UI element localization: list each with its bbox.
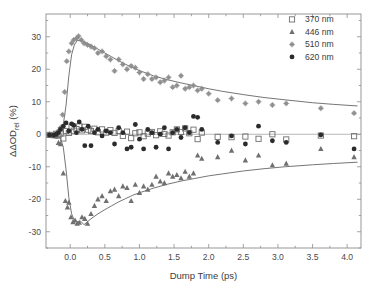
chart-svg: 0.00.51.01.52.02.53.03.54.03020100-10-20… <box>0 0 375 294</box>
data-point-filled-circle <box>352 146 357 151</box>
y-tick-label: -10 <box>29 162 42 172</box>
x-axis-label: Dump Time (ps) <box>170 270 238 281</box>
y-tick-label: 20 <box>31 64 41 74</box>
y-tick-label: 10 <box>31 97 41 107</box>
data-point-filled-triangle <box>178 175 183 180</box>
y-tick-label: -20 <box>29 194 42 204</box>
x-tick-label: 2.0 <box>203 252 215 262</box>
data-point-filled-triangle <box>92 203 97 208</box>
data-point-open-square <box>256 136 261 141</box>
data-point-filled-triangle <box>256 152 261 157</box>
data-point-filled-triangle <box>270 162 275 167</box>
data-point-filled-triangle <box>158 178 163 183</box>
data-point-filled-circle <box>74 130 79 135</box>
data-point-filled-circle <box>154 145 159 150</box>
data-point-filled-circle <box>104 129 109 134</box>
x-tick-label: 4.0 <box>341 252 353 262</box>
data-point-filled-circle <box>215 140 220 145</box>
data-point-filled-triangle <box>63 198 68 203</box>
data-point-filled-circle <box>183 125 188 130</box>
data-point-filled-circle <box>229 133 234 138</box>
data-point-filled-triangle <box>318 146 323 151</box>
x-tick-label: 2.5 <box>237 252 249 262</box>
data-point-filled-circle <box>77 120 82 125</box>
y-tick-label: 0 <box>36 129 41 139</box>
data-point-filled-circle <box>82 143 87 148</box>
data-point-filled-circle <box>162 125 167 130</box>
data-point-filled-triangle <box>215 154 220 159</box>
data-point-filled-triangle <box>149 182 154 187</box>
data-point-filled-triangle <box>289 29 294 34</box>
x-tick-label: 3.5 <box>307 252 319 262</box>
data-point-filled-circle <box>243 142 248 147</box>
data-point-filled-triangle <box>182 169 187 174</box>
data-point-filled-circle <box>133 122 138 127</box>
data-point-filled-triangle <box>153 174 158 179</box>
data-point-filled-circle <box>270 138 275 143</box>
data-point-open-square <box>129 136 134 141</box>
legend-label: 510 nm <box>305 39 334 49</box>
data-point-filled-circle <box>191 114 196 119</box>
data-point-filled-circle <box>150 130 155 135</box>
data-point-filled-circle <box>290 55 295 60</box>
data-point-filled-triangle <box>229 148 234 153</box>
data-point-open-square <box>243 134 248 139</box>
data-point-filled-circle <box>284 140 289 145</box>
data-point-filled-circle <box>47 133 52 138</box>
legend: 370 nm446 nm510 nm620 nm <box>289 14 334 62</box>
data-point-filled-circle <box>137 137 142 142</box>
data-point-filled-circle <box>145 127 150 132</box>
data-point-filled-triangle <box>124 185 129 190</box>
x-tick-label: 3.0 <box>272 252 284 262</box>
data-point-filled-triangle <box>116 193 121 198</box>
data-point-filled-triangle <box>162 180 167 185</box>
data-point-filled-triangle <box>95 196 100 201</box>
data-point-filled-circle <box>199 127 204 132</box>
data-point-filled-triangle <box>65 204 70 209</box>
figure-container: 0.00.51.01.52.02.53.03.54.03020100-10-20… <box>0 0 375 294</box>
data-point-filled-triangle <box>133 182 138 187</box>
data-point-filled-circle <box>112 142 117 147</box>
fit-curve <box>48 134 357 224</box>
data-point-filled-circle <box>179 135 184 140</box>
data-point-filled-circle <box>120 130 125 135</box>
y-axis-label-unit: (%) <box>7 105 18 122</box>
y-axis-label-text: ΔΔODrel (%) <box>7 105 20 157</box>
data-point-filled-triangle <box>199 156 204 161</box>
data-point-filled-circle <box>129 145 134 150</box>
data-point-filled-circle <box>108 130 113 135</box>
data-point-filled-triangle <box>128 198 133 203</box>
data-point-filled-triangle <box>351 154 356 159</box>
x-tick-label: 0.0 <box>64 252 76 262</box>
data-point-filled-circle <box>66 129 71 134</box>
data-point-filled-triangle <box>112 187 117 192</box>
data-point-filled-triangle <box>191 170 196 175</box>
data-point-filled-triangle <box>166 170 171 175</box>
data-point-filled-triangle <box>195 152 200 157</box>
data-point-filled-triangle <box>88 211 93 216</box>
data-point-filled-circle <box>71 123 76 128</box>
data-point-filled-triangle <box>99 193 104 198</box>
legend-label: 370 nm <box>305 14 334 24</box>
y-tick-label: -30 <box>29 227 42 237</box>
x-tick-label: 1.0 <box>133 252 145 262</box>
data-point-open-square <box>289 17 294 22</box>
data-point-filled-triangle <box>104 198 109 203</box>
data-point-filled-circle <box>318 133 323 138</box>
y-axis-label: ΔΔODrel (%) <box>7 105 20 157</box>
data-point-filled-circle <box>89 143 94 148</box>
data-point-filled-circle <box>64 120 69 125</box>
data-point-filled-circle <box>187 130 192 135</box>
data-point-filled-circle <box>158 132 163 137</box>
data-point-filled-triangle <box>170 174 175 179</box>
data-point-filled-triangle <box>120 183 125 188</box>
data-point-filled-triangle <box>174 172 179 177</box>
data-point-filled-triangle <box>243 157 248 162</box>
series-620-nm <box>47 114 356 151</box>
data-point-filled-circle <box>116 125 121 130</box>
y-tick-label: 30 <box>31 32 41 42</box>
data-point-open-square <box>215 134 220 139</box>
legend-label: 620 nm <box>305 52 334 62</box>
data-point-filled-circle <box>195 115 200 120</box>
legend-label: 446 nm <box>305 27 334 37</box>
